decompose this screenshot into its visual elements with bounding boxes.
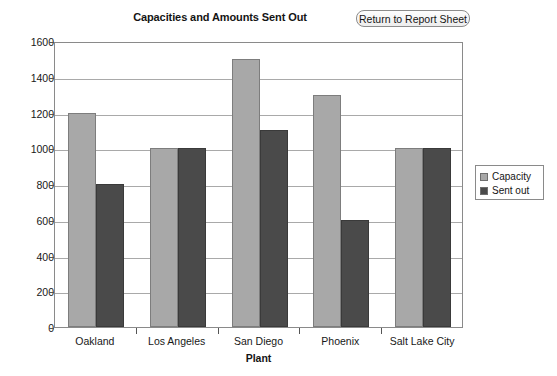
x-tick-label: Phoenix xyxy=(321,335,359,347)
bar-capacity-oakland xyxy=(68,113,96,328)
bar-capacity-los-angeles xyxy=(150,148,178,327)
y-tick-label: 400 xyxy=(10,251,54,263)
y-tick-label: 0 xyxy=(10,322,54,334)
bar-sent-out-los-angeles xyxy=(178,148,206,327)
legend-swatch-icon xyxy=(480,187,488,195)
x-tick-label: Los Angeles xyxy=(148,335,205,347)
return-to-report-sheet-button[interactable]: Return to Report Sheet xyxy=(356,10,470,27)
x-tick-label: Oakland xyxy=(75,335,114,347)
bar-capacity-san-diego xyxy=(232,59,260,327)
bar-sent-out-phoenix xyxy=(341,220,369,327)
legend-item-label: Capacity xyxy=(492,171,531,182)
x-tick-mark xyxy=(136,328,137,334)
legend-item: Sent out xyxy=(480,184,539,197)
y-tick-label: 200 xyxy=(10,286,54,298)
bar-sent-out-san-diego xyxy=(260,130,288,327)
bars-layer xyxy=(55,43,462,327)
x-axis-title: Plant xyxy=(54,352,463,364)
x-tick-mark xyxy=(218,328,219,334)
x-tick-label: San Diego xyxy=(234,335,283,347)
x-tick-mark xyxy=(381,328,382,334)
bar-capacity-phoenix xyxy=(313,95,341,327)
legend-item-label: Sent out xyxy=(492,185,529,196)
bar-capacity-salt-lake-city xyxy=(395,148,423,327)
y-tick-label: 1200 xyxy=(10,108,54,120)
x-tick-label: Salt Lake City xyxy=(390,335,455,347)
x-axis: OaklandLos AngelesSan DiegoPhoenixSalt L… xyxy=(54,328,463,352)
y-tick-label: 1600 xyxy=(10,36,54,48)
plot-area xyxy=(54,42,463,328)
y-tick-label: 1400 xyxy=(10,72,54,84)
y-tick-label: 600 xyxy=(10,215,54,227)
y-tick-label: 1000 xyxy=(10,143,54,155)
y-axis: 02004006008001000120014001600 xyxy=(0,42,54,328)
bar-sent-out-salt-lake-city xyxy=(423,148,451,327)
legend-item: Capacity xyxy=(480,170,539,183)
bar-sent-out-oakland xyxy=(96,184,124,327)
y-tick-label: 800 xyxy=(10,179,54,191)
x-tick-mark xyxy=(299,328,300,334)
legend-swatch-icon xyxy=(480,173,488,181)
chart-legend: CapacitySent out xyxy=(475,165,544,200)
